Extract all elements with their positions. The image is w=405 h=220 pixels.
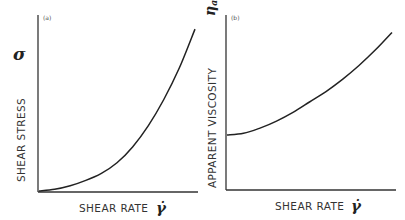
- panel-b-x-symbol: γ̇: [351, 197, 362, 215]
- panel-b-y-label: APPARENT VISCOSITY: [206, 68, 218, 188]
- panel-a: (a) SHEAR STRESS σ SHEAR RATE γ̇: [13, 14, 198, 217]
- panel-a-x-label: SHEAR RATE: [79, 202, 148, 214]
- panel-a-label: (a): [43, 14, 51, 21]
- panel-b-curve: [227, 32, 392, 135]
- panel-a-x-symbol: γ̇: [156, 199, 167, 217]
- panel-b-y-symbol: ηa: [202, 0, 219, 16]
- panel-a-curve: [39, 29, 195, 191]
- panel-a-y-label: SHEAR STRESS: [15, 98, 27, 182]
- panel-b-y-symbol-eta: η: [202, 6, 218, 16]
- panel-b: (b) APPARENT VISCOSITY ηa SHEAR RATE γ̇: [202, 0, 396, 215]
- panel-b-y-symbol-sub: a: [209, 0, 219, 6]
- panel-b-label: (b): [231, 14, 240, 21]
- panel-a-y-symbol: σ: [13, 44, 26, 64]
- panel-b-x-label: SHEAR RATE: [275, 200, 344, 212]
- chart-figure: (a) SHEAR STRESS σ SHEAR RATE γ̇ (b) APP…: [0, 0, 405, 220]
